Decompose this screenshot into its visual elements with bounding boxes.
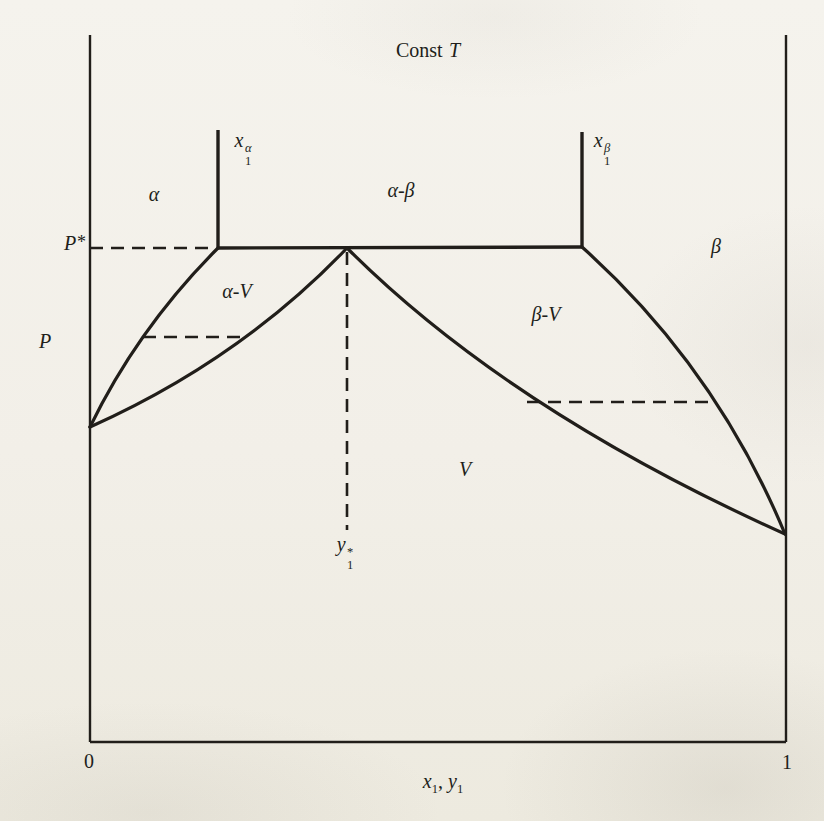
p-star-asterisk: * [77, 232, 86, 252]
x1-alpha-base: x [235, 129, 244, 151]
y1-star-label: y*1 [337, 533, 354, 572]
region-alpha-v-label: α-V [222, 280, 251, 302]
x1-beta-base: x [594, 129, 603, 151]
x1-beta-scripts: β1 [604, 142, 610, 168]
y-axis-label: P [39, 330, 51, 352]
x-max-tick-label: 1 [782, 751, 792, 773]
figure-page: ConstT P P* xα1 xβ1 α α-β β α-V β-V V y*… [0, 0, 824, 821]
x-min-text: 0 [84, 750, 94, 772]
title-text: Const [396, 39, 443, 61]
figure-title: ConstT [396, 39, 460, 61]
y1-star-base: y [337, 533, 346, 555]
region-alpha-v-text: α-V [222, 280, 251, 302]
region-v-text: V [459, 458, 471, 480]
x-axis-separator: , [438, 770, 443, 792]
x-axis-base2: y [448, 770, 457, 792]
p-star-base: P [64, 232, 76, 254]
y1-star-sub: 1 [347, 559, 353, 572]
title-symbol: T [449, 39, 460, 61]
beta-bubble-curve [582, 247, 785, 534]
x1-alpha-scripts: α1 [245, 142, 252, 168]
region-beta-label: β [711, 235, 721, 257]
x1-alpha-sub: 1 [245, 155, 251, 168]
beta-dew-curve [347, 248, 785, 534]
region-alpha-beta-text: α-β [387, 179, 414, 201]
diagram-canvas [0, 0, 824, 821]
region-beta-text: β [711, 235, 721, 257]
p-star-label: P* [64, 232, 86, 254]
region-alpha-label: α [149, 183, 160, 205]
x1-beta-label: xβ1 [594, 129, 611, 168]
region-v-label: V [459, 458, 471, 480]
x1-alpha-label: xα1 [235, 129, 252, 168]
x-max-text: 1 [782, 751, 792, 773]
x-axis-label: x1,y1 [423, 770, 463, 797]
three-phase-line [218, 247, 582, 248]
x-axis-base1: x [423, 770, 432, 792]
region-beta-v-label: β-V [532, 303, 561, 325]
y-axis-label-text: P [39, 330, 51, 352]
region-alpha-text: α [149, 183, 160, 205]
region-alpha-beta-label: α-β [387, 179, 414, 201]
y1-star-scripts: *1 [347, 546, 353, 572]
x1-beta-sub: 1 [604, 155, 610, 168]
x-min-tick-label: 0 [84, 750, 94, 772]
x-axis-sub2: 1 [457, 782, 463, 796]
region-beta-v-text: β-V [532, 303, 561, 325]
